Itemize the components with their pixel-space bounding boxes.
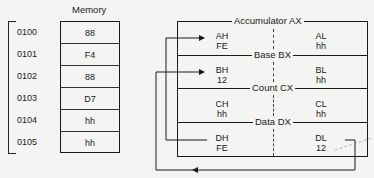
dh-to-ah-arrow	[166, 38, 207, 140]
dl-to-bh-arrow	[156, 72, 355, 170]
data-flow-arrows	[0, 0, 374, 178]
return-arrowhead	[192, 167, 198, 173]
